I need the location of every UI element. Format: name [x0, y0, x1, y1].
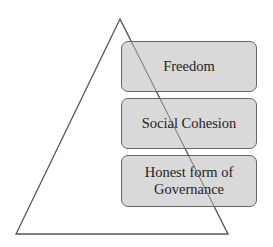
level-box-social-cohesion: Social Cohesion	[121, 98, 257, 149]
pyramid-diagram: Freedom Social Cohesion Honest form of G…	[0, 0, 273, 247]
level-box-freedom: Freedom	[121, 41, 257, 92]
level-label: Freedom	[163, 58, 215, 75]
level-label: Honest form of Governance	[128, 164, 250, 198]
level-label: Social Cohesion	[142, 115, 237, 132]
level-box-governance: Honest form of Governance	[121, 155, 257, 207]
